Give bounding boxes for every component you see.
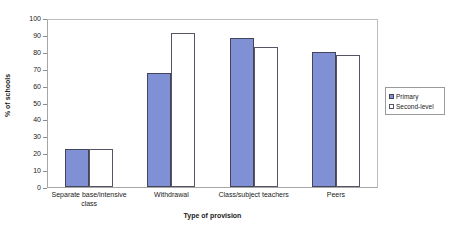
y-axis-tick-label: 50: [33, 99, 41, 108]
y-axis-tick-label: 40: [33, 115, 41, 124]
legend-label: Primary: [396, 92, 418, 101]
bar-second-level: [89, 149, 113, 187]
x-axis-category-label: Withdrawal: [130, 190, 212, 199]
y-axis-tick-label: 100: [29, 14, 41, 23]
y-axis-tick-mark: [43, 188, 47, 189]
y-axis-tick-label: 80: [33, 48, 41, 57]
x-axis-title: Type of provision: [48, 212, 377, 219]
y-axis-tick-label: 90: [33, 31, 41, 40]
bar-group: [130, 20, 212, 187]
bar-second-level: [336, 55, 360, 187]
x-axis-category-label: Separate base/intensive class: [48, 190, 130, 208]
bar-primary: [65, 149, 89, 187]
chart-legend: PrimarySecond-level: [385, 87, 445, 115]
x-axis-category-label: Peers: [295, 190, 377, 199]
legend-entry: Second-level: [389, 101, 441, 111]
x-axis-category-label: Class/subject teachers: [213, 190, 295, 199]
y-axis-tick-label: 0: [37, 183, 41, 192]
bar-chart-figure: % of schools 0102030405060708090100 Sepa…: [0, 0, 452, 228]
y-axis: 0102030405060708090100: [18, 19, 47, 188]
legend-swatch-icon: [389, 94, 394, 99]
bar-primary: [147, 73, 171, 187]
y-axis-tick-label: 60: [33, 82, 41, 91]
bar-group: [213, 20, 295, 187]
bar-group: [48, 20, 130, 187]
y-axis-tick-label: 10: [33, 166, 41, 175]
y-axis-tick-label: 70: [33, 65, 41, 74]
y-axis-title-label: % of schools: [5, 73, 12, 116]
legend-entry: Primary: [389, 91, 441, 101]
bars-layer: [48, 20, 377, 187]
bar-second-level: [254, 47, 278, 187]
bar-second-level: [171, 33, 195, 187]
y-axis-tick-label: 20: [33, 149, 41, 158]
bar-group: [295, 20, 377, 187]
bar-primary: [312, 52, 336, 187]
y-axis-title: % of schools: [0, 0, 16, 190]
legend-label: Second-level: [396, 102, 434, 111]
legend-swatch-icon: [389, 104, 394, 109]
bar-primary: [230, 38, 254, 187]
y-axis-tick-label: 30: [33, 132, 41, 141]
